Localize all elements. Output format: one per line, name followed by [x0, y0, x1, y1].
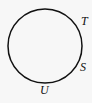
- circle-diagram: T S U: [0, 0, 92, 103]
- circle: [8, 9, 82, 83]
- point-label-u: U: [40, 84, 49, 96]
- point-label-s: S: [80, 61, 86, 73]
- point-label-t: T: [81, 15, 88, 27]
